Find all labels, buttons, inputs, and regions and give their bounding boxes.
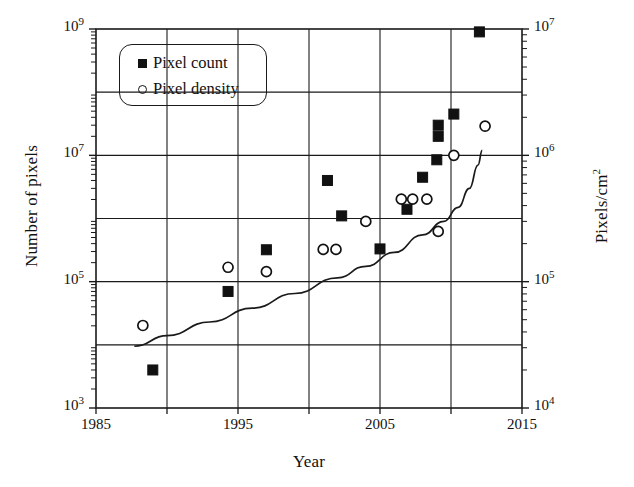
data-point-pixel-count	[261, 245, 271, 255]
y-tick-label-left: 107	[38, 144, 84, 161]
data-point-pixel-density	[261, 267, 271, 277]
x-tick-label: 1985	[61, 416, 131, 433]
data-point-pixel-count	[449, 109, 459, 119]
y-tick-label-left: 109	[38, 18, 84, 35]
data-point-pixel-count	[474, 27, 484, 37]
x-tick-label: 2015	[487, 416, 557, 433]
y-tick-label-right: 106	[534, 144, 580, 161]
data-point-pixel-count	[322, 175, 332, 185]
data-point-pixel-count	[375, 244, 385, 254]
data-point-pixel-density	[480, 121, 490, 131]
data-point-pixel-density	[396, 194, 406, 204]
data-point-pixel-density	[223, 262, 233, 272]
y-tick-label-left: 105	[38, 271, 84, 288]
x-tick-label: 2005	[345, 416, 415, 433]
data-point-pixel-density	[361, 216, 371, 226]
data-point-pixel-density	[318, 244, 328, 254]
y-tick-label-left: 103	[38, 397, 84, 414]
series-pixel-density	[138, 121, 490, 330]
data-point-pixel-density	[408, 194, 418, 204]
trend-curve	[134, 150, 482, 346]
data-point-pixel-density	[138, 320, 148, 330]
data-point-pixel-density	[433, 226, 443, 236]
data-point-pixel-count	[418, 172, 428, 182]
y-tick-label-right: 104	[534, 397, 580, 414]
data-point-pixel-density	[422, 194, 432, 204]
chart-figure: Number of pixels Pixels/cm2 Year Pixel c…	[0, 0, 634, 487]
y-tick-label-right: 105	[534, 271, 580, 288]
data-point-pixel-count	[433, 131, 443, 141]
data-point-pixel-count	[337, 211, 347, 221]
data-point-pixel-count	[433, 120, 443, 130]
data-point-pixel-count	[223, 286, 233, 296]
grid-lines	[96, 29, 522, 408]
data-point-pixel-density	[449, 150, 459, 160]
data-point-pixel-count	[148, 365, 158, 375]
data-point-pixel-density	[331, 244, 341, 254]
y-tick-label-right: 107	[534, 18, 580, 35]
data-point-pixel-count	[402, 204, 412, 214]
x-tick-label: 1995	[203, 416, 273, 433]
data-point-pixel-count	[432, 155, 442, 165]
